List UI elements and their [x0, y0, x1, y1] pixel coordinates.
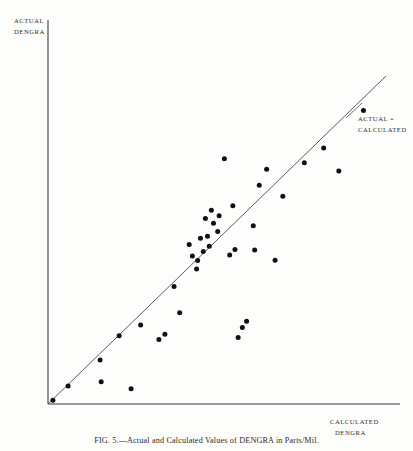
data-point — [209, 208, 214, 213]
y-axis-label-line2: DENGRA — [14, 27, 44, 38]
data-point — [187, 242, 192, 247]
data-point — [156, 337, 161, 342]
data-point — [66, 383, 71, 388]
data-point — [222, 156, 227, 161]
reference-line-annotation-line1: ACTUAL = — [358, 115, 394, 122]
data-point — [280, 194, 285, 199]
data-point — [207, 244, 212, 249]
data-point — [99, 379, 104, 384]
data-point — [252, 247, 257, 252]
data-point — [117, 333, 122, 338]
data-point — [194, 267, 199, 272]
data-point — [98, 357, 103, 362]
data-point — [215, 229, 220, 234]
data-point — [177, 310, 182, 315]
data-point — [264, 167, 269, 172]
y-axis-label-line1: ACTUAL — [14, 17, 44, 24]
data-point — [190, 254, 195, 259]
data-points-group — [50, 108, 366, 403]
data-point — [273, 258, 278, 263]
data-point — [138, 323, 143, 328]
data-point — [205, 234, 210, 239]
data-point — [203, 216, 208, 221]
data-point — [244, 319, 249, 324]
figure-container: ACTUAL DENGRA CALCULATED DENGRA ACTUAL =… — [0, 0, 413, 451]
data-point — [201, 249, 206, 254]
reference-line-annotation: ACTUAL = CALCULATED — [358, 113, 407, 135]
data-point — [257, 183, 262, 188]
reference-line-actual-equals-calculated — [48, 76, 386, 404]
reference-line-annotation-line2: CALCULATED — [358, 124, 407, 135]
data-point — [236, 335, 241, 340]
data-point — [336, 168, 341, 173]
figure-caption: FIG. 5.—Actual and Calculated Values of … — [0, 436, 413, 445]
data-point — [129, 386, 134, 391]
data-point — [211, 221, 216, 226]
data-point — [162, 332, 167, 337]
data-point — [195, 258, 200, 263]
data-point — [240, 325, 245, 330]
data-point — [172, 284, 177, 289]
data-point — [217, 213, 222, 218]
data-point — [50, 398, 55, 403]
data-point — [227, 253, 232, 258]
y-axis-label: ACTUAL DENGRA — [14, 16, 44, 37]
data-point — [198, 236, 203, 241]
scatter-plot — [0, 0, 413, 451]
data-point — [321, 146, 326, 151]
data-point — [251, 223, 256, 228]
data-point — [230, 203, 235, 208]
x-axis-label-line1: CALCULATED — [330, 418, 379, 425]
data-point — [302, 160, 307, 165]
data-point — [232, 247, 237, 252]
